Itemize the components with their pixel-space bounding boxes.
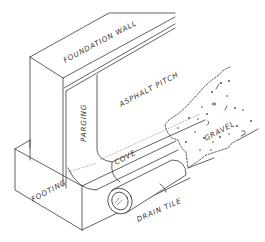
label-parging: PARGING bbox=[79, 104, 88, 142]
label-footing: FOOTING bbox=[30, 178, 68, 204]
label-cove: COVE bbox=[113, 148, 138, 167]
label-asphalt-pitch: ASPHALT PITCH bbox=[117, 70, 180, 109]
gravel bbox=[165, 67, 258, 168]
drain-tile bbox=[104, 160, 186, 218]
foundation-diagram: FOUNDATION WALL ASPHALT PITCH PARGING GR… bbox=[0, 0, 265, 242]
label-gravel: GRAVEL bbox=[203, 119, 237, 143]
